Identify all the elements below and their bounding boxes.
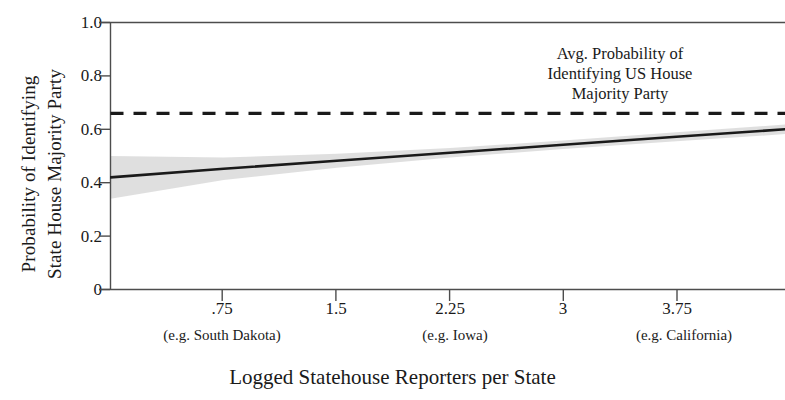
x-tick-label: 3	[559, 300, 568, 317]
x-axis-title: Logged Statehouse Reporters per State	[0, 365, 785, 389]
x-tick-label: 1.5	[325, 300, 346, 317]
chart-annotation-line1: Avg. Probability of	[510, 44, 730, 64]
chart-annotation-line3: Majority Party	[510, 84, 730, 104]
fitted-line	[111, 129, 785, 177]
x-tick-label: 3.75	[662, 300, 692, 317]
x-tick-label: .75	[211, 300, 232, 317]
chart-annotation: Avg. Probability of Identifying US House…	[510, 44, 730, 104]
x-tick-label: 2.25	[435, 300, 465, 317]
x-example-label-south-dakota: (e.g. South Dakota)	[163, 328, 280, 343]
x-example-label-iowa: (e.g. Iowa)	[422, 328, 487, 343]
chart-annotation-line2: Identifying US House	[510, 64, 730, 84]
y-axis-ticks	[99, 23, 110, 290]
x-example-label-california: (e.g. California)	[636, 328, 732, 343]
chart-figure: Probability of Identifying State House M…	[0, 0, 785, 400]
